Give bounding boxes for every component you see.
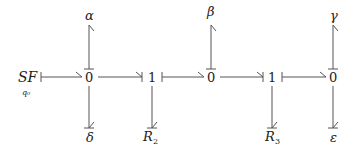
bond-j1-to-delta xyxy=(84,86,94,128)
junction-0-b: 0 xyxy=(207,70,215,85)
bond-sf-to-j1 xyxy=(41,72,82,82)
bond-j4-to-j5 xyxy=(282,72,326,82)
source-label: SF xyxy=(18,69,39,85)
element-epsilon: ε xyxy=(330,130,337,145)
bond-j1-to-alpha xyxy=(84,25,94,69)
bond-j2-to-j3 xyxy=(162,72,204,82)
bond-j3-to-beta xyxy=(206,25,216,69)
bond-j4-to-r3 xyxy=(267,86,277,128)
element-gamma: γ xyxy=(330,8,338,23)
source-sf: SF q₀ xyxy=(18,69,39,97)
bond-j3-to-j4 xyxy=(220,72,263,82)
bond-graph-diagram: SF q₀ 0 1 0 1 0 α δ R 2 β R 3 γ ε xyxy=(0,0,355,157)
junction-1-b: 1 xyxy=(268,70,276,85)
junction-1-a: 1 xyxy=(148,70,156,85)
bond-j2-to-r2 xyxy=(147,86,157,128)
svg-text:R: R xyxy=(142,129,153,144)
bond-j5-to-epsilon xyxy=(328,86,338,128)
junction-0-c: 0 xyxy=(329,70,337,85)
element-alpha: α xyxy=(85,8,94,23)
bond-graph-svg: SF q₀ 0 1 0 1 0 α δ R 2 β R 3 γ ε xyxy=(0,0,355,157)
element-beta: β xyxy=(206,4,215,19)
svg-text:3: 3 xyxy=(275,137,280,146)
element-r2: R 2 xyxy=(142,129,158,146)
junction-0-a: 0 xyxy=(85,70,93,85)
element-r3: R 3 xyxy=(264,129,280,146)
element-delta: δ xyxy=(86,130,94,145)
svg-text:2: 2 xyxy=(153,137,158,146)
bond-j1-to-j2 xyxy=(98,72,142,82)
bond-j5-to-gamma xyxy=(328,25,338,69)
svg-text:R: R xyxy=(264,129,275,144)
source-subscript: q₀ xyxy=(22,88,31,97)
